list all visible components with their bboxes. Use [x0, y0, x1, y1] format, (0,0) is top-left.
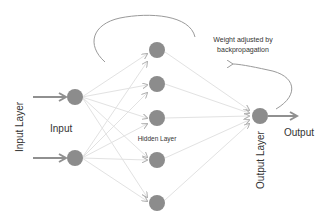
hidden-node [149, 42, 165, 58]
output-node [252, 108, 268, 124]
hidden-layer-label: Hidden Layer [138, 135, 177, 143]
input-hidden-edges [82, 54, 147, 201]
hidden-node [149, 195, 165, 211]
hidden-node [149, 76, 165, 92]
input-layer-label: Input Layer [14, 101, 25, 152]
input-node [67, 150, 83, 166]
output-label: Output [284, 127, 314, 138]
hidden-node [149, 152, 165, 168]
output-layer-label: Output Layer [255, 130, 266, 188]
backprop-label-line2: backpropagation [217, 46, 269, 54]
hidden-node [149, 110, 165, 126]
hidden-output-edges [165, 52, 249, 200]
input-label: Input [50, 123, 72, 134]
neural-network-diagram: Input Layer Input Hidden Layer Output La… [0, 0, 329, 221]
input-node [67, 89, 83, 105]
hidden-layer-nodes [149, 42, 165, 211]
backpropagation-curve-top [94, 15, 195, 62]
backpropagation-curve [233, 64, 292, 109]
backprop-label-line1: Weight adjusted by [213, 36, 273, 44]
